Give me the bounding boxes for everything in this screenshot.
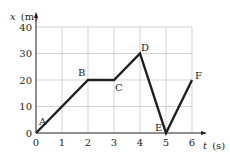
- point-label-b: B: [78, 67, 85, 78]
- point-label-c: C: [115, 82, 123, 93]
- y-axis-label: x (m): [10, 11, 38, 22]
- x-tick-label: 3: [111, 137, 117, 148]
- x-tick-label: 2: [85, 137, 91, 148]
- x-tick-label: 1: [59, 137, 65, 148]
- y-tick-label: 30: [19, 48, 32, 59]
- position-time-chart: 0123456010203040 ABCDEF x (m) t (s): [0, 0, 230, 155]
- x-tick-label: 5: [163, 137, 169, 148]
- y-tick-label: 0: [26, 128, 32, 139]
- y-tick-label: 10: [19, 101, 32, 112]
- point-label-d: D: [141, 42, 149, 53]
- point-label-e: E: [155, 122, 162, 133]
- x-axis-arrow-icon: [201, 131, 207, 135]
- point-label-f: F: [195, 70, 202, 81]
- x-tick-label: 0: [33, 137, 39, 148]
- y-tick-label: 40: [19, 22, 32, 33]
- y-tick-label: 20: [19, 75, 32, 86]
- point-labels: ABCDEF: [38, 42, 202, 134]
- x-tick-label: 6: [189, 137, 195, 148]
- point-label-a: A: [38, 116, 47, 127]
- x-axis-label: t (s): [203, 140, 225, 151]
- x-tick-label: 4: [137, 137, 143, 148]
